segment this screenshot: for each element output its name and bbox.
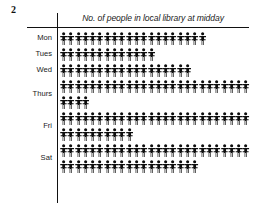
- person-icon: [96, 64, 103, 77]
- day-label-sat: Sat: [27, 153, 57, 162]
- person-icon: [169, 80, 176, 93]
- person-icon: [162, 80, 169, 93]
- person-icon: [213, 144, 220, 157]
- person-icon: [75, 128, 82, 141]
- person-icon: [96, 160, 103, 173]
- person-icon: [82, 96, 89, 109]
- person-icon: [89, 128, 96, 141]
- person-icon: [213, 112, 220, 125]
- person-icon: [111, 144, 118, 157]
- person-icon: [155, 144, 162, 157]
- row-symbols: [57, 77, 250, 109]
- person-icon: [82, 144, 89, 157]
- person-icon: [191, 112, 198, 125]
- person-icon: [199, 112, 206, 125]
- person-icon: [169, 32, 176, 45]
- person-icon: [184, 32, 191, 45]
- person-icon: [133, 160, 140, 173]
- person-icon: [67, 32, 74, 45]
- person-icon: [126, 112, 133, 125]
- person-icon: [155, 32, 162, 45]
- person-icon: [60, 48, 67, 61]
- person-icon: [67, 144, 74, 157]
- day-label-thurs: Thurs: [27, 89, 57, 98]
- person-icon: [82, 128, 89, 141]
- person-icon: [133, 144, 140, 157]
- person-icon: [155, 112, 162, 125]
- person-icon: [206, 112, 213, 125]
- person-icon: [96, 128, 103, 141]
- person-icon: [67, 96, 74, 109]
- person-icon: [67, 160, 74, 173]
- person-icon: [75, 80, 82, 93]
- person-icon: [133, 112, 140, 125]
- person-icon: [221, 144, 228, 157]
- person-icon: [104, 64, 111, 77]
- person-icon: [148, 64, 155, 77]
- person-icon: [118, 128, 125, 141]
- person-icon: [111, 160, 118, 173]
- chart-title: No. of people in local library at midday: [59, 12, 247, 26]
- person-icon: [133, 80, 140, 93]
- person-icon: [118, 48, 125, 61]
- person-icon: [126, 128, 133, 141]
- person-icon: [177, 64, 184, 77]
- person-icon: [235, 112, 242, 125]
- person-icon: [126, 64, 133, 77]
- person-icon: [89, 32, 96, 45]
- day-label-tues: Tues: [27, 49, 57, 58]
- person-icon: [96, 112, 103, 125]
- person-icon: [96, 144, 103, 157]
- person-icon: [184, 80, 191, 93]
- person-icon: [184, 144, 191, 157]
- person-icon: [60, 160, 67, 173]
- person-icon: [177, 80, 184, 93]
- person-icon: [206, 80, 213, 93]
- person-icon: [60, 112, 67, 125]
- person-icon: [89, 160, 96, 173]
- person-icon: [140, 64, 147, 77]
- person-icon: [60, 32, 67, 45]
- symbol-line: [60, 109, 250, 125]
- person-icon: [221, 112, 228, 125]
- person-icon: [148, 144, 155, 157]
- symbol-line: [60, 125, 250, 141]
- person-icon: [126, 160, 133, 173]
- person-icon: [148, 80, 155, 93]
- person-icon: [104, 80, 111, 93]
- person-icon: [118, 112, 125, 125]
- day-label-wed: Wed: [27, 65, 57, 74]
- person-icon: [104, 144, 111, 157]
- person-icon: [162, 144, 169, 157]
- person-icon: [104, 48, 111, 61]
- person-icon: [148, 32, 155, 45]
- person-icon: [67, 80, 74, 93]
- person-icon: [89, 64, 96, 77]
- person-icon: [75, 112, 82, 125]
- person-icon: [191, 32, 198, 45]
- person-icon: [104, 112, 111, 125]
- person-icon: [133, 48, 140, 61]
- person-icon: [75, 144, 82, 157]
- person-icon: [242, 144, 249, 157]
- person-icon: [67, 112, 74, 125]
- day-label-mon: Mon: [27, 33, 57, 42]
- person-icon: [228, 144, 235, 157]
- person-icon: [155, 160, 162, 173]
- person-icon: [60, 128, 67, 141]
- person-icon: [140, 48, 147, 61]
- person-icon: [140, 160, 147, 173]
- person-icon: [60, 64, 67, 77]
- person-icon: [199, 80, 206, 93]
- person-icon: [140, 112, 147, 125]
- person-icon: [89, 144, 96, 157]
- pictogram-row: Sat: [27, 141, 249, 173]
- row-symbols: [57, 29, 249, 45]
- symbol-line: [60, 157, 250, 173]
- person-icon: [75, 96, 82, 109]
- person-icon: [177, 32, 184, 45]
- person-icon: [111, 64, 118, 77]
- person-icon: [104, 32, 111, 45]
- person-icon: [89, 48, 96, 61]
- row-symbols: [57, 109, 250, 141]
